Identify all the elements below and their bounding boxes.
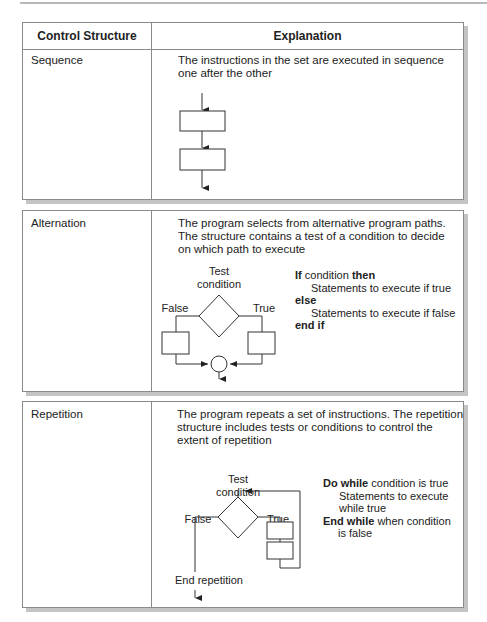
false-label: False (162, 302, 189, 314)
end-repetition-label: End repetition (175, 574, 243, 586)
loop-body-box-2 (267, 542, 293, 559)
false-label: False (185, 513, 212, 525)
false-branch-box (162, 332, 189, 354)
true-branch-box (248, 332, 275, 354)
process-box-1 (180, 111, 225, 131)
junction-circle (211, 356, 227, 372)
repetition-pseudocode: Do while condition is true Statements to… (323, 477, 451, 540)
test-label: Test (209, 265, 229, 277)
sequence-panel: Control Structure Explanation Sequence T… (22, 22, 464, 200)
top-rule (20, 2, 487, 4)
process-box-2 (180, 149, 225, 170)
test-label: Test (228, 473, 248, 485)
condition-label: condition (197, 278, 241, 290)
decision-diamond (199, 295, 239, 337)
true-label: True (253, 302, 275, 314)
sequence-diagram (23, 23, 465, 201)
loop-body-box-1 (267, 522, 293, 539)
alternation-panel: Alternation The program selects from alt… (22, 210, 464, 392)
alternation-pseudocode: If condition then Statements to execute … (295, 269, 455, 332)
repetition-panel: Repetition The program repeats a set of … (22, 401, 464, 608)
decision-diamond (218, 497, 258, 538)
